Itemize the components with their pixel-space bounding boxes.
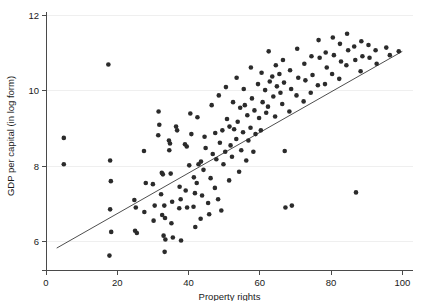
- data-point: [152, 203, 157, 208]
- data-point: [199, 159, 204, 164]
- data-point: [184, 144, 189, 149]
- data-point: [178, 197, 183, 202]
- data-point: [220, 128, 225, 133]
- data-point: [366, 43, 371, 48]
- data-point: [225, 117, 230, 122]
- data-point: [243, 103, 248, 108]
- data-point: [206, 201, 211, 206]
- data-point: [200, 193, 205, 198]
- data-point: [188, 111, 193, 116]
- data-point: [277, 72, 282, 77]
- data-point: [168, 171, 173, 176]
- data-point: [245, 113, 250, 118]
- data-point: [323, 50, 328, 55]
- data-point: [202, 134, 207, 139]
- data-point: [259, 71, 264, 76]
- data-point: [237, 169, 242, 174]
- data-point: [217, 93, 222, 98]
- data-point: [289, 87, 294, 92]
- data-point: [250, 96, 255, 101]
- data-point: [151, 182, 156, 187]
- data-point: [108, 207, 113, 212]
- data-point: [251, 149, 256, 154]
- data-point: [234, 75, 239, 80]
- data-point: [133, 205, 138, 210]
- data-point: [288, 68, 293, 73]
- data-point: [187, 163, 192, 168]
- y-axis-title: GDP per capital (in log form): [5, 76, 16, 196]
- data-point: [227, 124, 232, 129]
- data-point: [339, 59, 344, 64]
- data-point: [241, 87, 246, 92]
- data-point: [323, 82, 328, 87]
- data-point: [227, 178, 232, 183]
- data-point: [282, 80, 287, 85]
- data-point: [278, 90, 283, 95]
- data-point: [337, 77, 342, 82]
- x-tick-label: 100: [394, 277, 410, 288]
- data-point: [234, 137, 239, 142]
- data-point: [359, 39, 364, 44]
- data-point: [210, 152, 215, 157]
- data-point: [303, 78, 308, 83]
- data-point: [317, 55, 322, 60]
- data-point: [191, 204, 196, 209]
- regression-line: [57, 51, 403, 248]
- data-point: [271, 94, 276, 99]
- data-point: [384, 45, 389, 50]
- data-point: [358, 69, 363, 74]
- data-point: [396, 49, 401, 54]
- data-point: [367, 55, 372, 60]
- data-point: [373, 48, 378, 53]
- data-point: [213, 186, 218, 191]
- data-point: [183, 188, 188, 193]
- data-point: [256, 82, 261, 87]
- data-point: [177, 206, 182, 211]
- data-point: [170, 200, 175, 205]
- data-point: [106, 62, 111, 67]
- data-point: [263, 88, 268, 93]
- data-point: [218, 140, 223, 145]
- data-point: [252, 108, 257, 113]
- data-point: [260, 100, 265, 105]
- data-point: [267, 79, 272, 84]
- data-point: [244, 158, 249, 163]
- data-point: [294, 93, 299, 98]
- data-point: [330, 72, 335, 77]
- data-point: [201, 168, 206, 173]
- data-point: [266, 104, 271, 109]
- data-point: [159, 192, 164, 197]
- data-point: [168, 141, 173, 146]
- data-point: [224, 85, 229, 90]
- data-point: [338, 42, 343, 47]
- data-point: [354, 190, 359, 195]
- data-point: [253, 132, 258, 137]
- data-point: [171, 235, 176, 240]
- data-point: [296, 75, 301, 80]
- x-tick-label: 80: [326, 277, 337, 288]
- data-point: [151, 218, 156, 223]
- data-point: [167, 148, 172, 153]
- data-point: [132, 198, 137, 203]
- data-point: [232, 127, 237, 132]
- data-point: [189, 132, 194, 137]
- data-point: [143, 181, 148, 186]
- data-point: [163, 237, 168, 242]
- data-point: [207, 212, 212, 217]
- y-tick-label: 12: [28, 10, 39, 21]
- data-point: [235, 119, 240, 124]
- data-point: [238, 105, 243, 110]
- data-point: [162, 203, 167, 208]
- data-point: [353, 58, 358, 63]
- data-point: [213, 131, 218, 136]
- data-point: [241, 130, 246, 135]
- data-point: [287, 109, 292, 114]
- chart-canvas: 681012020406080100Property rightsGDP per…: [0, 0, 425, 301]
- data-point: [108, 158, 113, 163]
- data-point: [290, 203, 295, 208]
- data-point: [194, 181, 199, 186]
- data-point: [209, 103, 214, 108]
- data-point: [161, 172, 166, 177]
- data-point: [109, 179, 114, 184]
- data-point: [259, 128, 264, 133]
